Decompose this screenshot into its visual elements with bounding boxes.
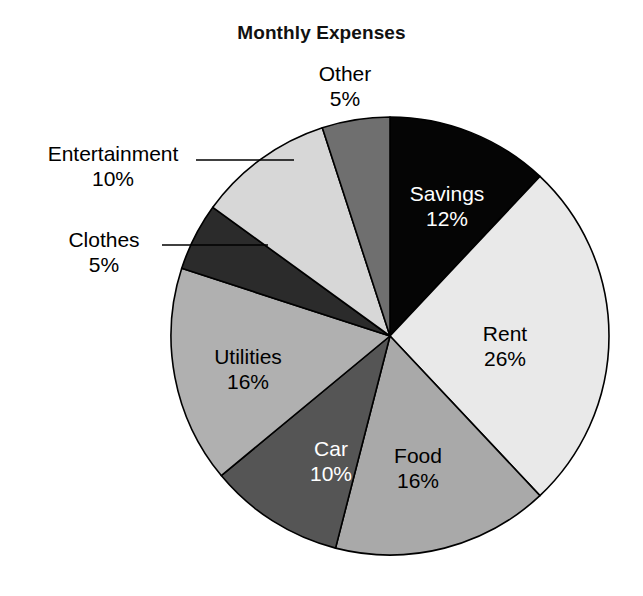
pie-slices-group xyxy=(171,117,609,555)
pie-chart-figure: Monthly Expenses Savings12%Rent26%Food16… xyxy=(0,0,643,596)
pie-chart-canvas xyxy=(0,0,643,596)
